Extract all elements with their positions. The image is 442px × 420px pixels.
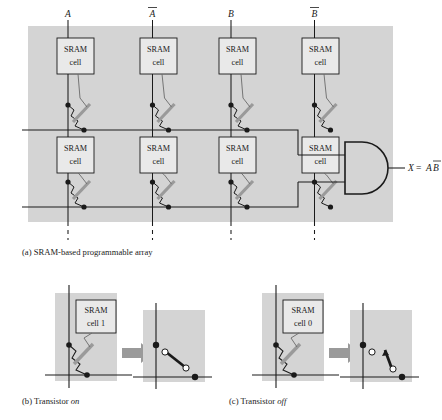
sram-cell-label-line2: cell [315,58,328,67]
sram-cell-r2c2: SRAM cell [140,137,177,173]
panel-c: SRAM cell 0 (c) Transistor off [229,285,419,406]
panel-b-switch-equivalent [133,303,212,389]
panel-c-junction-dot-row [291,372,297,378]
panel-b-caption-state: on [71,396,80,406]
output-label: X = A B [407,161,441,173]
column-headers: A A B B [64,8,319,20]
junction-dot-row [328,204,333,209]
junction-dot-row [166,127,171,132]
junction-dot-column [65,179,70,184]
panel-b-sram-line1: SRAM [84,306,108,315]
panel-b-junction-dot-row [84,372,90,378]
column-label-a: A [64,9,71,19]
junction-dot-row [328,127,333,132]
and-gate-body [345,142,388,194]
output-label-equals: = [416,163,421,173]
sram-cell-label-line1: SRAM [226,45,250,54]
panel-c-sram-cell: SRAM cell 0 [283,300,323,333]
panel-c-caption-prefix: (c) Transistor [229,396,277,406]
junction-dot-row [244,204,249,209]
sram-cell-label-line1: SRAM [147,45,171,54]
junction-dot-column [65,102,70,107]
junction-dot-column [150,179,155,184]
sram-cell-label-line2: cell [153,157,166,166]
panel-b: SRAM cell 1 (b) Transistor on [22,285,212,406]
sram-cell-r1c1: SRAM cell [57,38,94,74]
sram-cell-r2c1: SRAM cell [57,137,94,173]
sram-array-figure: A A B B SRAM ce [0,0,442,420]
junction-dot-row [81,204,86,209]
panel-b-switch-terminal-top [153,342,159,348]
sram-cell-label-line1: SRAM [147,144,171,153]
junction-dot-row [244,127,249,132]
panel-a: A A B B SRAM ce [22,8,441,258]
sram-cell-label-line2: cell [315,157,328,166]
panel-a-caption: (a) SRAM-based programmable array [22,247,153,257]
column-dashed-extensions [68,222,315,240]
panel-b-sram-line2: cell 1 [87,319,105,328]
column-label-b: B [228,9,234,19]
sram-cell-label-line2: cell [232,157,245,166]
panel-c-switch-background [350,310,412,382]
sram-cell-label-line2: cell [70,157,83,166]
sram-cell-label-line2: cell [70,58,83,67]
panel-c-switch-equivalent [340,303,419,389]
sram-cell-label-line1: SRAM [64,45,88,54]
panel-c-junction-dot-column [273,342,279,348]
junction-dot-column [228,102,233,107]
panel-b-caption: (b) Transistor on [22,396,79,406]
panel-b-caption-prefix: (b) Transistor [22,396,71,406]
panel-c-switch-terminal-bottom [399,374,405,380]
junction-dot-row [166,204,171,209]
junction-dot-row [81,127,86,132]
panel-b-switch-terminal-bottom [192,374,198,380]
output-label-b: B [433,163,439,173]
panel-c-switch-terminal-top [360,342,366,348]
panel-c-switch-contact-upper [369,349,375,355]
panel-c-caption-state: off [277,396,288,406]
junction-dot-column [150,102,155,107]
panel-b-sram-cell: SRAM cell 1 [76,300,116,333]
sram-cell-r2c3: SRAM cell [219,137,256,173]
panel-b-switch-contact-upper [162,349,168,355]
panel-b-junction-dot-column [66,342,72,348]
sram-cell-r1c4: SRAM cell [302,38,339,74]
panel-b-switch-background [143,310,205,382]
column-label-abar: A [149,9,156,19]
panel-c-sram-line1: SRAM [291,306,315,315]
sram-cell-label-line1: SRAM [309,144,333,153]
panel-c-switch-contact-lower [390,366,396,372]
junction-dot-column [312,102,317,107]
output-label-x: X [407,163,415,173]
sram-cell-label-line2: cell [153,58,166,67]
panel-c-sram-line2: cell 0 [294,319,312,328]
sram-cell-label-line1: SRAM [226,144,250,153]
sram-cell-r1c2: SRAM cell [140,38,177,74]
panel-b-switch-contact-lower [183,365,189,371]
output-label-a: A [425,163,432,173]
sram-cell-label-line1: SRAM [64,144,88,153]
sram-cell-r1c3: SRAM cell [219,38,256,74]
sram-cell-label-line1: SRAM [309,45,333,54]
sram-cell-label-line2: cell [232,58,245,67]
panel-c-caption: (c) Transistor off [229,396,288,406]
column-label-bbar: B [312,9,318,19]
junction-dot-column [228,179,233,184]
